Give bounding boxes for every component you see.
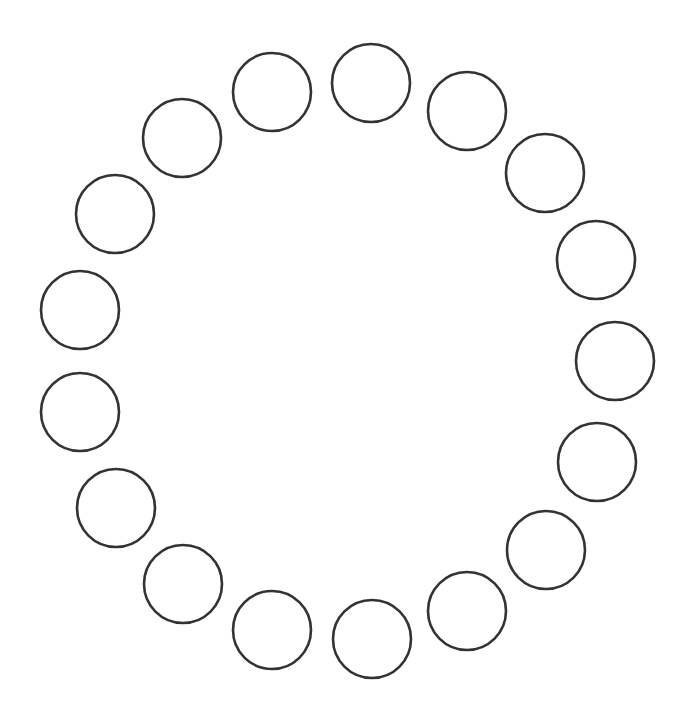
circle-11	[144, 545, 222, 623]
circle-4	[557, 221, 635, 299]
circle-7	[507, 511, 585, 589]
circle-6	[558, 423, 636, 501]
circle-12	[77, 469, 155, 547]
ring-diagram	[0, 0, 695, 714]
circle-10	[233, 591, 311, 669]
circle-17	[233, 53, 311, 131]
circle-2	[428, 72, 506, 150]
circle-9	[333, 600, 411, 678]
circle-5	[576, 322, 654, 400]
circle-13	[41, 373, 119, 451]
circle-16	[143, 99, 221, 177]
circle-1	[332, 44, 410, 122]
circle-3	[506, 134, 584, 212]
circle-8	[428, 572, 506, 650]
circle-14	[41, 271, 119, 349]
circle-15	[76, 175, 154, 253]
